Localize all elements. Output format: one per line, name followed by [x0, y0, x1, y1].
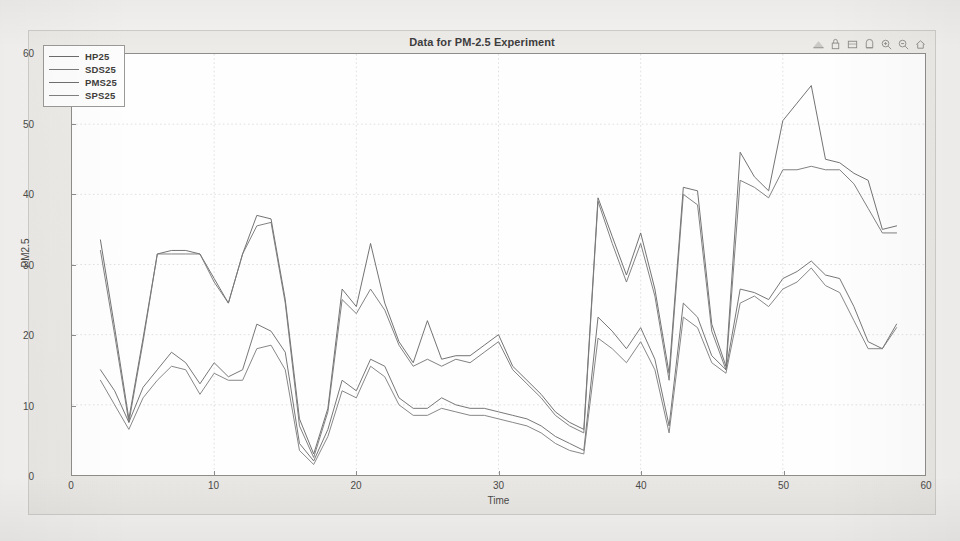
x-tick-label: 30 [493, 480, 504, 491]
x-tick-mark [784, 471, 785, 476]
y-tick-mark [71, 335, 76, 336]
insert-colorbar-icon[interactable] [845, 37, 859, 51]
x-tick-label: 20 [350, 480, 361, 491]
y-tick-label: 50 [10, 118, 34, 129]
legend-item-sps25[interactable]: SPS25 [49, 89, 117, 102]
x-tick-mark [499, 471, 500, 476]
zoom-out-icon[interactable] [896, 37, 910, 51]
x-tick-label: 60 [920, 480, 931, 491]
screenshot-root: Data for PM-2.5 Experiment [0, 0, 960, 541]
series-line-hp25 [100, 86, 896, 454]
insert-legend-icon[interactable] [862, 37, 876, 51]
zoom-in-icon[interactable] [879, 37, 893, 51]
y-tick-mark [71, 265, 76, 266]
legend-item-sds25[interactable]: SDS25 [49, 63, 117, 76]
y-tick-label: 30 [10, 259, 34, 270]
x-tick-label: 0 [68, 480, 74, 491]
legend-box[interactable]: HP25SDS25PMS25SPS25 [43, 45, 125, 107]
legend-line-swatch [49, 82, 79, 83]
x-tick-label: 50 [778, 480, 789, 491]
figure-window: Data for PM-2.5 Experiment [28, 30, 936, 515]
pan-home-icon[interactable] [913, 37, 927, 51]
x-axis-label: Time [71, 495, 926, 506]
series-svg [72, 54, 925, 475]
page-title: Data for PM-2.5 Experiment [29, 36, 935, 48]
y-tick-label: 40 [10, 189, 34, 200]
rotate-3d-icon[interactable] [811, 37, 825, 51]
x-tick-label: 10 [208, 480, 219, 491]
legend-label: HP25 [85, 51, 109, 62]
x-tick-mark [214, 471, 215, 476]
data-cursor-icon[interactable] [828, 37, 842, 51]
legend-label: SPS25 [85, 90, 115, 101]
plot-axes[interactable] [71, 53, 926, 476]
y-tick-label: 20 [10, 330, 34, 341]
legend-label: PMS25 [85, 77, 117, 88]
y-tick-label: 10 [10, 400, 34, 411]
x-tick-mark [641, 471, 642, 476]
x-tick-label: 40 [635, 480, 646, 491]
y-tick-mark [71, 194, 76, 195]
y-tick-mark [71, 406, 76, 407]
figure-toolbar[interactable] [811, 36, 927, 52]
y-tick-mark [71, 124, 76, 125]
y-tick-label: 0 [10, 471, 34, 482]
legend-line-swatch [49, 95, 79, 96]
legend-label: SDS25 [85, 64, 116, 75]
legend-item-hp25[interactable]: HP25 [49, 50, 117, 63]
plot-canvas [72, 54, 925, 475]
y-tick-label: 60 [10, 48, 34, 59]
legend-item-pms25[interactable]: PMS25 [49, 76, 117, 89]
x-tick-mark [356, 471, 357, 476]
legend-line-swatch [49, 56, 79, 57]
legend-line-swatch [49, 69, 79, 70]
